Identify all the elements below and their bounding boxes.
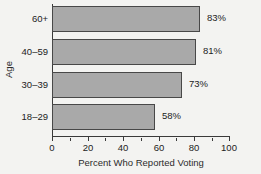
- plot-area: 83% 81% 73% 58%: [52, 4, 230, 137]
- x-tick-minor-10: [70, 138, 71, 141]
- x-tick-0: [52, 136, 53, 141]
- y-tick-labels: 60+ 40–59 30–39 18–29: [0, 0, 48, 138]
- x-axis-line: [52, 136, 230, 137]
- x-tick-minor-50: [141, 138, 142, 141]
- bar-value-60plus: 83%: [207, 12, 226, 23]
- x-tick-label-100: 100: [221, 142, 237, 153]
- x-tick-label-60: 60: [154, 142, 165, 153]
- bar-60plus: [52, 6, 200, 32]
- x-tick-label-80: 80: [189, 142, 200, 153]
- x-tick-80: [194, 136, 195, 141]
- x-tick-minor-70: [176, 138, 177, 141]
- x-tick-minor-90: [212, 138, 213, 141]
- y-tick-label-30-39: 30–39: [2, 79, 48, 90]
- x-tick-40: [123, 136, 124, 141]
- x-tick-label-40: 40: [118, 142, 129, 153]
- x-tick-100: [229, 136, 230, 141]
- y-tick-label-60plus: 60+: [2, 13, 48, 24]
- bar-value-40-59: 81%: [203, 45, 222, 56]
- x-tick-20: [88, 136, 89, 141]
- bar-chart-figure: Age 60+ 40–59 30–39 18–29 83% 81% 73% 58…: [0, 0, 261, 174]
- bar-40-59: [52, 39, 196, 65]
- bar-value-18-29: 58%: [162, 110, 181, 121]
- bar-30-39: [52, 72, 182, 98]
- y-tick-label-40-59: 40–59: [2, 46, 48, 57]
- x-axis-title: Percent Who Reported Voting: [52, 157, 230, 168]
- bar-value-30-39: 73%: [189, 78, 208, 89]
- x-tick-60: [159, 136, 160, 141]
- x-tick-label-0: 0: [49, 142, 54, 153]
- bar-18-29: [52, 104, 155, 130]
- x-tick-label-20: 20: [83, 142, 94, 153]
- y-tick-label-18-29: 18–29: [2, 111, 48, 122]
- x-tick-minor-30: [105, 138, 106, 141]
